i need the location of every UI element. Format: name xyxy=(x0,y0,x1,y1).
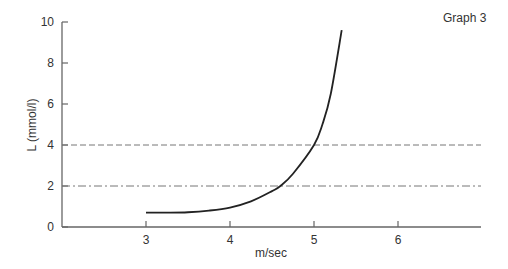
x-axis-label: m/sec xyxy=(255,246,287,260)
y-tick-label: 4 xyxy=(47,138,54,152)
y-tick-label: 8 xyxy=(47,56,54,70)
y-tick-label: 6 xyxy=(47,97,54,111)
chart-plot: 02468103456 m/sec L (mmol/l) xyxy=(0,0,508,269)
y-axis-label: L (mmol/l) xyxy=(25,99,39,152)
y-tick-label: 2 xyxy=(47,179,54,193)
x-tick-label: 4 xyxy=(227,233,234,247)
lactate-curve xyxy=(146,30,342,212)
axes: 02468103456 xyxy=(41,15,481,247)
x-tick-label: 3 xyxy=(143,233,150,247)
y-tick-label: 10 xyxy=(41,15,55,29)
x-tick-label: 6 xyxy=(395,233,402,247)
reference-lines xyxy=(62,145,481,186)
y-tick-label: 0 xyxy=(47,220,54,234)
data-series xyxy=(146,30,342,212)
x-tick-label: 5 xyxy=(311,233,318,247)
